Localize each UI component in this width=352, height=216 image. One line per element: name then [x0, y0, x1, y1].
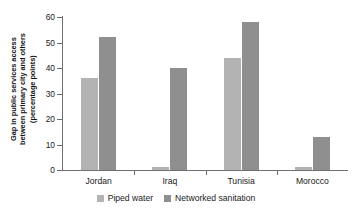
y-tick-label: 20	[0, 114, 55, 124]
y-tick-label: 0	[0, 165, 55, 175]
legend-swatch-icon	[97, 195, 104, 202]
x-axis-label-iraq: Iraq	[134, 176, 205, 187]
legend-label: Piped water	[108, 194, 153, 203]
bar	[99, 37, 116, 170]
bar	[224, 58, 241, 170]
y-tick-label: 30	[0, 89, 55, 99]
bar-chart: Gap in public services access between pr…	[0, 0, 352, 216]
bar	[170, 68, 187, 170]
bar	[313, 137, 330, 170]
y-tick-label: 60	[0, 12, 55, 22]
bar-group	[224, 17, 259, 170]
legend-item[interactable]: Networked sanitation	[164, 194, 255, 203]
bar	[152, 167, 169, 170]
bar	[81, 78, 98, 170]
x-axis-label-jordan: Jordan	[63, 176, 134, 187]
chart-legend: Piped waterNetworked sanitation	[0, 194, 352, 203]
bar-group	[152, 17, 187, 170]
y-tick-mark	[57, 43, 62, 44]
x-tick-mark	[206, 171, 207, 175]
y-tick-mark	[57, 94, 62, 95]
legend-swatch-icon	[164, 195, 171, 202]
y-tick-label: 40	[0, 63, 55, 73]
bar-group	[81, 17, 116, 170]
legend-label: Networked sanitation	[175, 194, 255, 203]
x-axis-label-tunisia: Tunisia	[206, 176, 277, 187]
y-tick-mark	[57, 170, 62, 171]
bar	[242, 22, 259, 170]
x-axis-label-morocco: Morocco	[277, 176, 348, 187]
y-tick-mark	[57, 68, 62, 69]
bar-group	[295, 17, 330, 170]
y-tick-label: 50	[0, 38, 55, 48]
y-tick-mark	[57, 119, 62, 120]
y-tick-mark	[57, 17, 62, 18]
y-tick-mark	[57, 145, 62, 146]
bar	[295, 167, 312, 170]
y-tick-label: 10	[0, 140, 55, 150]
x-tick-mark	[134, 171, 135, 175]
x-tick-mark	[277, 171, 278, 175]
legend-item[interactable]: Piped water	[97, 194, 153, 203]
plot-area	[63, 17, 348, 170]
